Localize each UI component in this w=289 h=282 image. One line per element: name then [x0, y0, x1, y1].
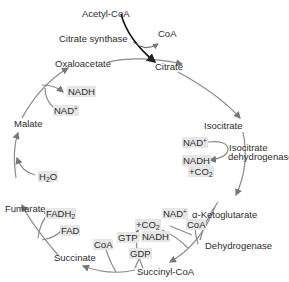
akg-nadh: NADH	[141, 231, 170, 242]
akg-co2: +CO2	[135, 219, 161, 230]
oxaloacetate-label: Oxaloacetate	[55, 58, 111, 69]
iso-co2: +CO2	[188, 166, 214, 177]
malate-label: Malate	[14, 118, 43, 129]
sdh-fadh2: FADH2	[45, 208, 76, 219]
succinate-label: Succinate	[54, 252, 96, 263]
iso-nad-plus: NAD+	[182, 137, 208, 148]
akg-coa: CoA	[186, 219, 206, 230]
succinyl-coa-label: Succinyl-CoA	[137, 266, 194, 277]
citrate-label: Citrate	[155, 61, 183, 72]
iso-nadh: NADH	[182, 155, 211, 166]
akg-dehydrogenase-label: Dehydrogenase	[205, 240, 272, 251]
mdh-nadh: NADH	[67, 86, 96, 97]
scs-gtp: GTP	[117, 232, 139, 243]
fumarate-label: Fumarate	[5, 203, 46, 214]
scs-coa: CoA	[93, 239, 113, 250]
acetyl-coa-label: Acetyl-CoA	[82, 8, 130, 19]
akg-nad-plus: NAD+	[162, 208, 188, 219]
arrow-succinylcoa-succinate	[83, 266, 135, 272]
released-coa-label: CoA	[158, 28, 176, 39]
arrow-citrate-isocitrate	[178, 72, 240, 118]
sdh-fad: FAD	[60, 225, 80, 236]
fum-h2o: H2O	[38, 171, 58, 182]
citrate-synthase-label: Citrate synthase	[59, 33, 128, 44]
scs-gdp: GDP	[129, 248, 152, 259]
mdh-nad-plus: NAD+	[53, 105, 79, 116]
arrow-fumarate-malate	[14, 133, 18, 178]
isocitrate-label: Isocitrate	[204, 120, 243, 131]
isocitrate-dh-line2: dehydrogenase	[228, 151, 289, 162]
